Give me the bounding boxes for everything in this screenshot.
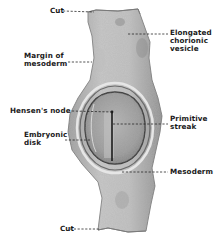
label-elongated-chorionic-vesicle: Elongated chorionic vesicle	[170, 29, 212, 54]
label-mesoderm: Mesoderm	[170, 168, 213, 176]
label-margin-of-mesoderm: Margin of mesoderm	[24, 52, 67, 68]
label-primitive-streak: Primitive streak	[170, 115, 208, 131]
label-hensens-node: Hensen's node	[10, 107, 71, 115]
embryonic-disk	[85, 92, 145, 164]
label-cut-top: Cut	[50, 7, 64, 15]
embryo-diagram: Cut Elongated chorionic vesicle Margin o…	[0, 0, 216, 240]
label-cut-bottom: Cut	[60, 225, 74, 233]
label-embryonic-disk: Embryonic disk	[24, 131, 67, 147]
